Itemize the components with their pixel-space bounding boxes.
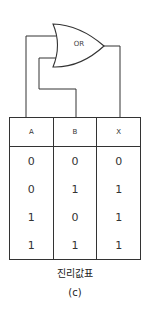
table-row: 1 0 1 [10,203,141,231]
header-x: X [97,118,141,147]
cell: 0 [10,175,54,203]
truth-table: A B X 0 0 0 0 1 1 1 0 1 1 1 1 [9,117,141,260]
cell: 0 [10,147,54,176]
cell: 1 [53,175,97,203]
table-row: 0 0 0 [10,147,141,176]
cell: 1 [97,175,141,203]
header-b: B [53,118,97,147]
cell: 0 [53,203,97,231]
gate-label: OR [67,40,91,48]
header-a: A [10,118,54,147]
cell: 0 [53,147,97,176]
wire-output-x [104,46,120,117]
cell: 1 [10,203,54,231]
cell: 1 [53,231,97,260]
cell: 0 [97,147,141,176]
cell: 1 [97,231,141,260]
table-caption: 진리값표 [0,265,150,280]
table-row: 1 1 1 [10,231,141,260]
cell: 1 [10,231,54,260]
cell: 1 [97,203,141,231]
table-header-row: A B X [10,118,141,147]
figure-sublabel: (c) [0,287,150,298]
wire-input-a [26,36,56,117]
table-row: 0 1 1 [10,175,141,203]
